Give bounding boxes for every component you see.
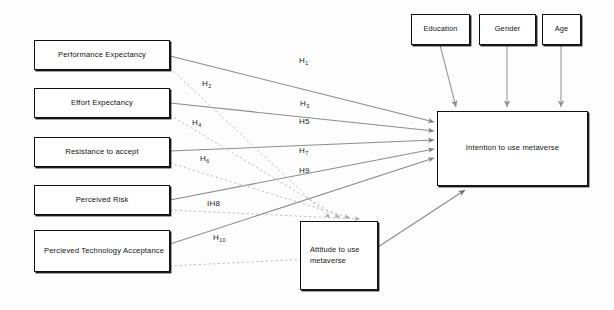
node-label: Effort Expectancy [35, 98, 169, 109]
hypothesis-label-h1: H1 [299, 56, 308, 65]
hypothesis-label-h8: IH8 [207, 199, 220, 208]
node-label: Resistance to accept [35, 147, 169, 158]
diagram-canvas: Performance Expectancy Effort Expectancy… [0, 0, 614, 310]
edge-h6-resistance-to-attitude [170, 163, 350, 218]
hypothesis-label-h10: H10 [213, 233, 225, 242]
node-moderator-gender[interactable]: Gender [479, 14, 536, 45]
node-moderator-education[interactable]: Education [411, 14, 470, 45]
node-label: Attitude to use metaverse [301, 245, 377, 266]
edge-h1-performance-to-intention [170, 56, 434, 122]
edge-education-to-intention [440, 45, 456, 107]
hypothesis-label-h6: H6 [200, 154, 209, 163]
hypothesis-label-h5: H5 [299, 117, 310, 126]
node-intention-to-use-metaverse[interactable]: Intention to use metaverse [437, 111, 588, 186]
node-performance-expectancy[interactable]: Performance Expectancy [34, 40, 170, 70]
node-effort-expectancy[interactable]: Effort Expectancy [34, 88, 170, 118]
hypothesis-label-h2: H2 [202, 79, 211, 88]
node-label: Performance Expectancy [35, 50, 169, 61]
node-label: Gender [480, 24, 535, 35]
edge-h8-perceived-risk-to-attitude [170, 210, 360, 219]
node-attitude-to-use-metaverse[interactable]: Attitude to use metaverse [300, 221, 378, 290]
hypothesis-label-h3: H3 [300, 99, 309, 108]
node-label: Intention to use metaverse [438, 143, 587, 154]
node-label: Age [543, 24, 580, 35]
node-label: Education [412, 24, 469, 35]
edge-h4-effort-to-attitude [170, 115, 340, 218]
node-moderator-age[interactable]: Age [542, 14, 581, 45]
node-resistance-to-accept[interactable]: Resistance to accept [34, 137, 170, 167]
node-perceived-technology-acceptance[interactable]: Percieved Technology Acceptance [34, 230, 170, 272]
edge-attitude-to-intention [378, 190, 465, 247]
hypothesis-label-h9: H9 [299, 166, 310, 175]
hypothesis-label-h7: H7 [299, 146, 308, 155]
node-label: Perceived Risk [35, 195, 169, 206]
node-label: Percieved Technology Acceptance [35, 246, 169, 257]
hypothesis-label-h4: H4 [192, 118, 201, 127]
node-perceived-risk[interactable]: Perceived Risk [34, 185, 170, 215]
